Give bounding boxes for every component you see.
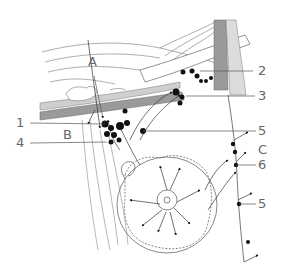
label-C: C	[258, 143, 267, 156]
label-4: 4	[16, 136, 24, 149]
label-6: 6	[258, 158, 266, 171]
breast	[117, 156, 217, 253]
label-A: A	[88, 55, 97, 68]
label-2: 2	[258, 64, 266, 77]
parasternal-arrows	[234, 132, 258, 262]
subclavian-vessels	[214, 20, 246, 95]
label-1: 1	[16, 116, 24, 129]
diagram-canvas	[0, 0, 281, 275]
axillary-vessels	[40, 82, 184, 120]
label-3: 3	[258, 89, 266, 102]
label-5-upper: 5	[258, 124, 266, 137]
label-5-lower: 5	[258, 197, 266, 210]
label-B: B	[63, 128, 72, 141]
